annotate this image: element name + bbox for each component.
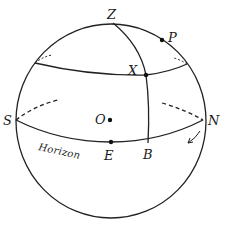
horizon-back-left — [16, 100, 58, 120]
star-point — [144, 73, 148, 77]
celestial-sphere-diagram: Z P X S N O E B Horizon — [0, 0, 225, 227]
vertical-circle-zxb — [113, 23, 149, 143]
label-pole: P — [167, 30, 177, 45]
diurnal-circle-front — [35, 63, 187, 75]
label-south: S — [3, 113, 12, 128]
label-b: B — [142, 147, 153, 162]
label-horizon: Horizon — [37, 141, 82, 161]
rotation-arrow — [188, 131, 200, 143]
pole-point — [160, 38, 164, 42]
label-star: X — [127, 63, 138, 78]
east-point — [109, 140, 113, 144]
label-east: E — [103, 148, 114, 163]
horizon-back-right — [162, 103, 203, 120]
diagram-canvas: Z P X S N O E B Horizon — [0, 0, 225, 227]
label-center: O — [95, 112, 106, 127]
label-zenith: Z — [106, 7, 117, 22]
label-north: N — [207, 113, 220, 128]
center-point — [108, 118, 112, 122]
horizon-front — [16, 120, 203, 142]
